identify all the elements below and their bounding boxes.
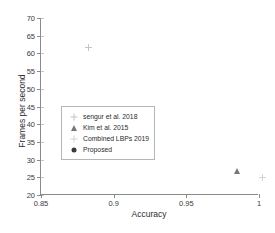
x-axis-tick-label: 0.9	[108, 199, 118, 208]
legend-item-label: Kim et al. 2015	[83, 122, 128, 133]
y-axis-tick-label: 60	[27, 49, 35, 58]
legend-item-label: Combined LBPs 2019	[83, 133, 149, 144]
y-axis-tick-inner	[41, 53, 44, 54]
x-axis-tick	[114, 194, 115, 198]
y-axis-tick-inner	[41, 160, 44, 161]
y-axis-tick-inner	[41, 71, 44, 72]
y-axis-tick-inner	[41, 142, 44, 143]
legend-marker-icon	[65, 111, 83, 122]
x-axis-title: Accuracy	[40, 209, 258, 219]
x-axis-tick	[186, 194, 187, 198]
x-axis-tick-label: 0.95	[179, 199, 194, 208]
y-axis-title: Frames per second	[17, 46, 27, 176]
y-axis-tick-label: 45	[27, 102, 35, 111]
y-axis-tick-inner	[41, 177, 44, 178]
y-axis-tick-label: 65	[27, 31, 35, 40]
x-axis-tick-label: 0.85	[34, 199, 49, 208]
x-axis-tick	[41, 194, 42, 198]
legend-item-label: sengur et al. 2018	[83, 111, 137, 122]
y-axis-tick-label: 55	[27, 67, 35, 76]
y-axis-tick-label: 40	[27, 120, 35, 129]
y-axis-tick-label: 25	[27, 173, 35, 182]
legend-marker-icon	[65, 133, 83, 144]
legend-item-kim-et-al-2015[interactable]: Kim et al. 2015	[65, 122, 151, 133]
y-axis-tick-label: 35	[27, 137, 35, 146]
y-axis-tick-inner	[41, 18, 44, 19]
x-axis-tick	[259, 194, 260, 198]
y-axis-tick-inner	[41, 107, 44, 108]
legend-item-label: Proposed	[83, 144, 112, 155]
x-axis-tick-label: 1	[257, 199, 261, 208]
legend-item-combined-lbps-2019[interactable]: Combined LBPs 2019	[65, 133, 151, 144]
legend-marker-icon	[65, 144, 83, 155]
scatter-plot-figure: 20253035404550556065700.850.90.951 Frame…	[0, 0, 275, 233]
legend-item-sengur-et-al-2018[interactable]: sengur et al. 2018	[65, 111, 151, 122]
y-axis-tick-label: 70	[27, 14, 35, 23]
y-axis-tick-inner	[41, 36, 44, 37]
y-axis-tick-inner	[41, 89, 44, 90]
chart-legend: sengur et al. 2018Kim et al. 2015Combine…	[61, 106, 155, 160]
legend-marker-icon	[65, 122, 83, 133]
y-axis-tick-label: 50	[27, 84, 35, 93]
data-point-kim-et-al-2015	[234, 151, 240, 169]
legend-item-proposed[interactable]: Proposed	[65, 144, 151, 155]
y-axis-tick-label: 30	[27, 155, 35, 164]
y-axis-tick-inner	[41, 124, 44, 125]
